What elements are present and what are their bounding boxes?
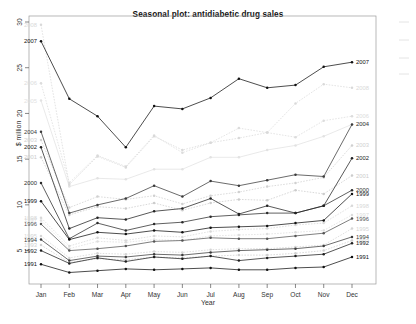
data-point: [294, 255, 297, 258]
y-tick-label: 10: [16, 201, 23, 209]
data-point: [322, 245, 325, 248]
data-point: [351, 214, 354, 217]
data-point: [238, 77, 241, 80]
series-label-left-2007: 2007: [24, 38, 37, 44]
data-point: [266, 257, 269, 260]
data-point: [40, 23, 43, 26]
data-point: [96, 240, 99, 243]
data-point: [266, 205, 269, 208]
data-point: [238, 198, 241, 201]
series-line: [41, 257, 352, 273]
data-point: [181, 149, 184, 152]
data-point: [266, 233, 269, 236]
data-point: [96, 115, 99, 118]
data-point: [322, 175, 325, 178]
data-point: [266, 225, 269, 228]
data-point: [266, 131, 269, 134]
data-point: [294, 247, 297, 250]
y-tick-label: 30: [16, 18, 23, 26]
data-point: [322, 205, 325, 208]
data-point: [238, 237, 241, 240]
series-label-left-2001: 2001: [24, 154, 37, 160]
data-point: [181, 236, 184, 239]
data-point: [209, 202, 212, 205]
series-2008: 20082008: [24, 22, 369, 186]
data-point: [68, 212, 71, 215]
data-point: [40, 238, 43, 241]
data-point: [96, 231, 99, 234]
data-point: [209, 197, 212, 200]
data-point: [181, 239, 184, 242]
data-point: [209, 97, 212, 100]
x-tick-label: Apr: [121, 291, 132, 299]
data-point: [351, 205, 354, 208]
x-tick-label: Aug: [233, 291, 245, 299]
data-point: [294, 267, 297, 270]
data-point: [125, 178, 128, 181]
data-point: [238, 184, 241, 187]
data-point: [266, 149, 269, 152]
data-point: [153, 184, 156, 187]
data-point: [322, 219, 325, 222]
data-point: [209, 194, 212, 197]
data-point: [351, 157, 354, 160]
series-label-right-1994: 1994: [356, 234, 370, 240]
data-point: [153, 223, 156, 226]
series-label-left-1999: 1999: [24, 198, 37, 204]
series-label-right-2002: 2002: [356, 155, 369, 161]
data-point: [68, 259, 71, 262]
series-label-right-2006: 2006: [356, 113, 369, 119]
series-label-right-2004: 2004: [356, 121, 370, 127]
data-point: [96, 155, 99, 158]
data-point: [266, 185, 269, 188]
data-point: [68, 245, 71, 248]
data-point: [294, 182, 297, 185]
x-tick-label: Oct: [290, 291, 300, 298]
data-point: [40, 139, 43, 142]
x-tick-label: Sep: [261, 291, 273, 299]
data-point: [68, 249, 71, 252]
data-point: [351, 189, 354, 192]
data-point: [181, 231, 184, 234]
data-point: [294, 231, 297, 234]
data-point: [322, 193, 325, 196]
data-point: [96, 237, 99, 240]
series-label-left-2003: 2003: [24, 137, 37, 143]
data-point: [125, 233, 128, 236]
data-point: [238, 213, 241, 216]
data-point: [209, 230, 212, 233]
series-label-right-2003: 2003: [356, 142, 369, 148]
data-point: [322, 229, 325, 232]
data-point: [294, 84, 297, 87]
data-point: [181, 251, 184, 254]
data-point: [322, 253, 325, 256]
data-point: [266, 254, 269, 257]
data-point: [351, 239, 354, 242]
data-point: [40, 82, 43, 85]
data-point: [68, 206, 71, 209]
data-point: [181, 203, 184, 206]
data-point: [153, 235, 156, 238]
data-point: [351, 61, 354, 64]
data-point: [322, 135, 325, 138]
data-point: [40, 263, 43, 266]
series-label-right-1991: 1991: [356, 254, 369, 260]
data-point: [40, 156, 43, 159]
data-point: [266, 212, 269, 215]
data-point: [351, 87, 354, 90]
data-point: [125, 256, 128, 259]
data-point: [209, 226, 212, 229]
series-2002: 20022002: [24, 144, 369, 230]
series-label-left-2005: 2005: [24, 98, 37, 104]
data-point: [238, 191, 241, 194]
plot-frame: [29, 16, 376, 284]
data-point: [40, 223, 43, 226]
data-point: [153, 202, 156, 205]
data-point: [40, 216, 43, 219]
data-point: [96, 204, 99, 207]
series-label-left-2000: 2000: [24, 180, 37, 186]
series-label-right-2001: 2001: [356, 173, 369, 179]
data-point: [96, 222, 99, 225]
series-line: [41, 83, 352, 183]
series-2005: 20052005: [24, 98, 369, 188]
